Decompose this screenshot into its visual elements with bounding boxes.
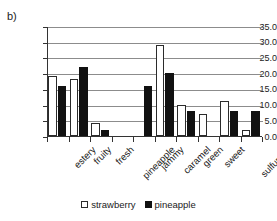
gridline <box>48 27 263 28</box>
x-axis-tick-mark <box>112 137 113 142</box>
bar-strawberry <box>220 101 229 136</box>
x-axis-tick-mark <box>155 137 156 142</box>
x-axis-tick-mark <box>219 137 220 142</box>
legend-item-strawberry: strawberry <box>81 199 135 210</box>
chart-legend: strawberrypineapple <box>0 199 277 210</box>
legend-swatch-open-square <box>81 201 88 208</box>
x-axis-label-fruity: fruity <box>91 144 113 166</box>
gridline <box>48 43 263 44</box>
bar-pineapple <box>79 67 88 136</box>
bar-pineapple <box>251 111 260 136</box>
legend-item-pineapple: pineapple <box>145 199 196 210</box>
x-axis-tick-mark <box>47 137 48 142</box>
x-axis-tick-mark <box>90 137 91 142</box>
bar-strawberry <box>177 105 186 136</box>
bar-pineapple <box>230 111 239 136</box>
x-axis-tick-mark <box>241 137 242 142</box>
x-axis-tick-mark <box>133 137 134 142</box>
x-axis-label-sweet: sweet <box>222 144 247 169</box>
x-axis-tick-mark <box>198 137 199 142</box>
x-axis-tick-mark <box>176 137 177 142</box>
bar-pineapple <box>165 73 174 136</box>
legend-swatch-filled-square <box>145 201 152 208</box>
panel-label: b) <box>7 10 17 22</box>
bar-pineapple <box>144 86 153 136</box>
bar-strawberry <box>48 76 57 136</box>
x-axis-tick-mark <box>262 137 263 142</box>
x-axis-label-sulfurous: sulfurous <box>258 144 277 179</box>
bar-chart: b) 35.030.025.020.015.010.05.00.0 estery… <box>0 0 277 221</box>
bar-strawberry <box>199 114 208 136</box>
x-axis-tick-mark <box>69 137 70 142</box>
x-axis-label-fresh: fresh <box>113 144 136 167</box>
legend-label: pineapple <box>155 199 196 210</box>
legend-label: strawberry <box>91 199 135 210</box>
bar-pineapple <box>101 130 110 136</box>
plot-area <box>47 27 262 137</box>
bar-strawberry <box>156 45 165 136</box>
bar-strawberry <box>242 130 251 136</box>
bar-strawberry <box>70 79 79 136</box>
bar-strawberry <box>91 123 100 136</box>
bar-pineapple <box>58 86 67 136</box>
bar-pineapple <box>187 111 196 136</box>
